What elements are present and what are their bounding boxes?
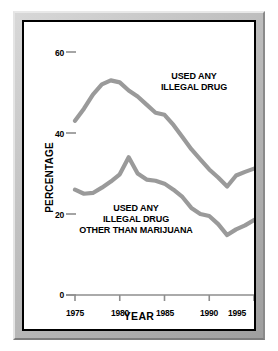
y-axis-title: PERCENTAGE	[44, 133, 55, 223]
series-annotation-illegal-drug: USED ANY ILLEGAL DRUG	[142, 71, 246, 93]
x-axis-line-and-ticks	[66, 295, 254, 301]
chart-plot-panel: 60 40 20 0 PERCENTAGE 1975 1980 1985 199…	[22, 20, 256, 331]
chart-canvas: 60 40 20 0 PERCENTAGE 1975 1980 1985 199…	[24, 22, 254, 329]
annotation-lower-line-2: ILLEGAL DRUG	[60, 214, 212, 225]
series-line-0	[75, 80, 254, 186]
figure-frame: 60 40 20 0 PERCENTAGE 1975 1980 1985 199…	[13, 11, 265, 340]
annotation-upper-line-1: USED ANY	[142, 71, 246, 82]
ytick-label-60: 60	[42, 48, 64, 58]
x-axis-title: YEAR	[24, 310, 254, 322]
annotation-lower-line-3: OTHER THAN MARIJUANA	[60, 225, 212, 236]
chart-vector-layer	[24, 22, 254, 329]
annotation-lower-line-1: USED ANY	[60, 203, 212, 214]
series-annotation-other-than-marijuana: USED ANY ILLEGAL DRUG OTHER THAN MARIJUA…	[60, 203, 212, 236]
ytick-label-0: 0	[42, 290, 64, 300]
annotation-upper-line-2: ILLEGAL DRUG	[142, 82, 246, 93]
